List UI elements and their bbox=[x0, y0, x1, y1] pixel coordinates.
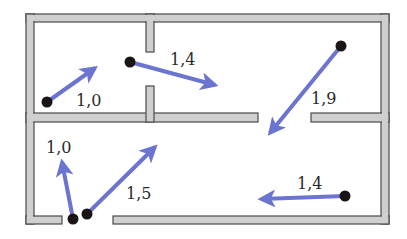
start-point-dot bbox=[125, 57, 136, 68]
vector-v5: 1,5 bbox=[82, 147, 156, 220]
start-point-dot bbox=[42, 97, 53, 108]
middle-wall-left bbox=[26, 113, 258, 122]
vector-v1: 1,0 bbox=[42, 68, 102, 110]
vector-label: 1,5 bbox=[126, 184, 151, 203]
arrow-icon bbox=[261, 196, 345, 199]
arrow-icon bbox=[62, 162, 73, 219]
seam-cover-left bbox=[27, 15, 33, 223]
floor-plan-diagram: 1,01,41,91,01,51,4 bbox=[0, 0, 407, 239]
vector-v6: 1,4 bbox=[261, 174, 351, 202]
start-point-dot bbox=[68, 214, 79, 225]
vector-v2: 1,4 bbox=[125, 50, 216, 85]
vector-label: 1,0 bbox=[76, 91, 101, 110]
seam-cover-top-left bbox=[27, 15, 388, 21]
divider-wall-lower bbox=[146, 86, 154, 122]
arrow-icon bbox=[87, 147, 155, 214]
seam-cover-right bbox=[382, 15, 388, 223]
vector-label: 1,9 bbox=[311, 89, 336, 108]
vector-label: 1,4 bbox=[170, 50, 195, 69]
vector-label: 1,0 bbox=[46, 138, 71, 157]
start-point-dot bbox=[336, 41, 347, 52]
vector-v4: 1,0 bbox=[46, 138, 79, 225]
start-point-dot bbox=[340, 191, 351, 202]
outer-wall-bottom-right bbox=[113, 216, 389, 224]
start-point-dot bbox=[82, 209, 93, 220]
walls bbox=[26, 14, 389, 224]
vector-label: 1,4 bbox=[297, 174, 322, 193]
movement-vectors: 1,01,41,91,01,51,4 bbox=[42, 41, 351, 225]
middle-wall-right bbox=[311, 113, 389, 122]
